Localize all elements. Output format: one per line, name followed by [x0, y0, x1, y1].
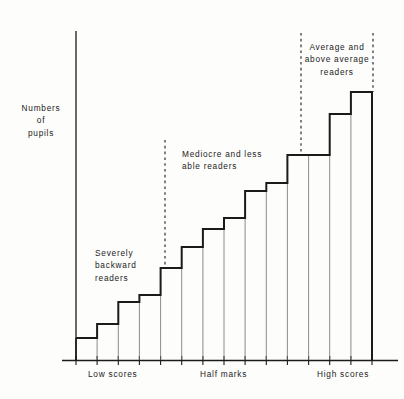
- annotation-mediocre-line-1: Mediocre and less: [182, 148, 262, 160]
- annotation-severely-line-3: readers: [95, 272, 137, 284]
- annotation-mediocre-readers: Mediocre and less able readers: [182, 148, 262, 173]
- annotation-mediocre-line-2: able readers: [182, 160, 262, 172]
- x-axis-label-high-scores: High scores: [317, 369, 369, 379]
- y-axis-label-line-1: Numbers: [12, 102, 70, 114]
- annotation-severely-line-1: Severely: [95, 247, 137, 259]
- annotation-severely-backward-readers: Severely backward readers: [95, 247, 137, 284]
- x-axis-label-low-scores: Low scores: [88, 369, 137, 379]
- annotation-severely-line-2: backward: [95, 259, 137, 271]
- y-axis-label-line-3: pupils: [12, 127, 70, 139]
- annotation-average-line-3: readers: [303, 66, 371, 78]
- x-axis-label-half-marks: Half marks: [200, 369, 247, 379]
- y-axis-label: Numbers of pupils: [12, 102, 70, 139]
- annotation-average-line-1: Average and: [303, 41, 371, 53]
- y-axis-label-line-2: of: [12, 114, 70, 126]
- annotation-average-line-2: above average: [303, 53, 371, 65]
- annotation-average-readers: Average and above average readers: [303, 41, 371, 78]
- reading-score-histogram-figure: Numbers of pupils Severely backward read…: [0, 0, 404, 399]
